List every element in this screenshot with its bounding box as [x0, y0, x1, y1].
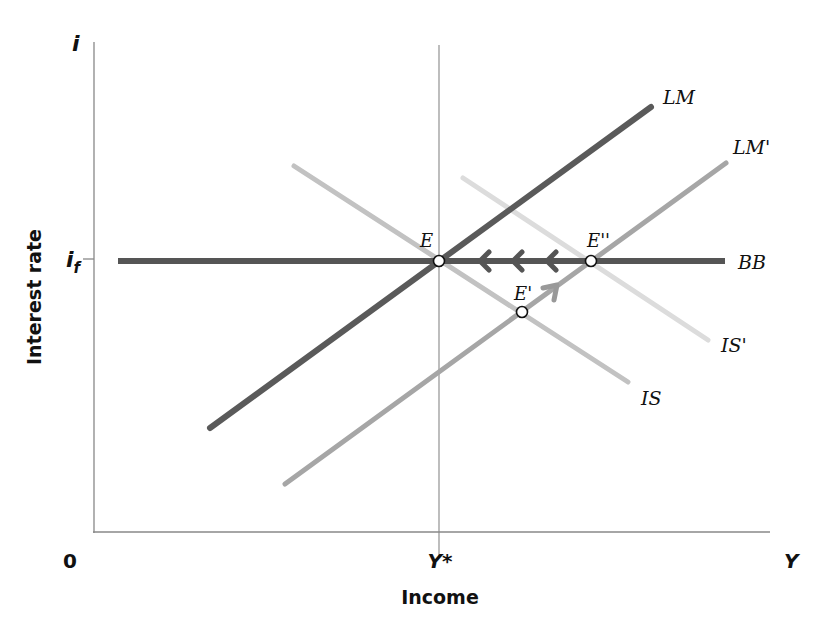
label-lm: LM: [662, 86, 696, 108]
label-e: E: [419, 230, 433, 251]
equilibrium-point-e: [434, 256, 445, 267]
if-tick-label: if: [66, 247, 83, 277]
ystar-tick-label: Y*: [428, 549, 453, 573]
is-curve: [294, 166, 628, 382]
label-e-prime: E': [513, 283, 532, 304]
origin-label: 0: [63, 549, 77, 573]
label-is: IS: [640, 387, 662, 409]
x-axis-title: Income: [401, 586, 479, 608]
y-axis-symbol: i: [72, 31, 80, 56]
label-lm-prime: LM': [732, 136, 770, 158]
label-bb: BB: [737, 251, 766, 273]
x-axis-symbol: Y: [784, 549, 801, 573]
y-axis-title: Interest rate: [23, 229, 45, 365]
equilibrium-point-e-double-prime: [586, 256, 597, 267]
if-subscript: f: [74, 259, 83, 277]
label-e-double-prime: E'': [586, 230, 610, 251]
label-is-prime: IS': [720, 334, 747, 356]
is-lm-bb-diagram: E E' E'' LM LM' BB IS' IS i if Interest …: [0, 0, 823, 629]
equilibrium-point-e-prime: [517, 307, 528, 318]
